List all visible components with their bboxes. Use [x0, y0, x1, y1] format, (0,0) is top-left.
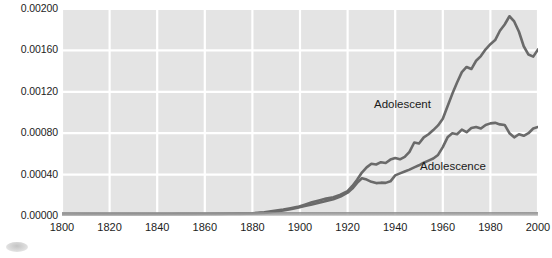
x-tick-label: 1980	[470, 221, 510, 233]
y-tick-label: 0.00160	[0, 43, 58, 55]
series-label-adolescent: Adolescent	[374, 98, 431, 110]
series-label-adolescence: Adolescence	[420, 160, 486, 172]
baseline-shadow	[62, 212, 538, 216]
x-tick-label: 1800	[42, 221, 82, 233]
y-tick-label: 0.00120	[0, 85, 58, 97]
y-tick-label: 0.00080	[0, 126, 58, 138]
plot-svg	[62, 9, 538, 216]
x-tick-label: 1820	[90, 221, 130, 233]
x-tick-label: 1900	[280, 221, 320, 233]
page-scan-artifact	[6, 242, 28, 252]
x-tick-label: 1880	[232, 221, 272, 233]
plot-area	[62, 9, 538, 216]
x-tick-label: 1860	[185, 221, 225, 233]
x-tick-label: 1920	[328, 221, 368, 233]
y-tick-label: 0.00040	[0, 168, 58, 180]
x-tick-label: 1940	[375, 221, 415, 233]
y-tick-label: 0.00000	[0, 209, 58, 221]
gridlines	[62, 9, 538, 216]
x-tick-label: 1960	[423, 221, 463, 233]
x-tick-label: 2000	[518, 221, 552, 233]
y-axis: 0.002000.001600.001200.000800.000400.000…	[0, 0, 58, 258]
x-tick-label: 1840	[137, 221, 177, 233]
chart-container: 0.002000.001600.001200.000800.000400.000…	[0, 0, 552, 258]
y-tick-label: 0.00200	[0, 2, 58, 14]
